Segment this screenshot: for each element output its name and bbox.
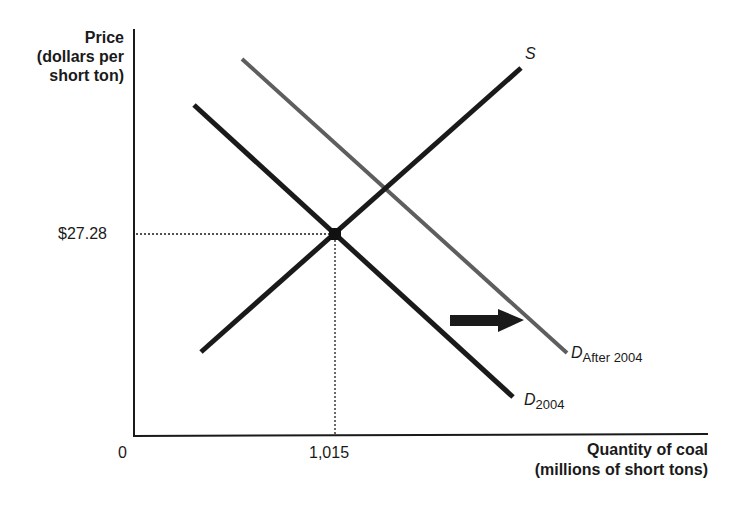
demand-2004-label-main: D bbox=[524, 391, 536, 408]
supply-curve bbox=[201, 68, 521, 352]
origin-label: 0 bbox=[118, 444, 127, 462]
demand-2004-curve bbox=[194, 105, 513, 397]
y-axis-label-line3: short ton) bbox=[20, 66, 124, 85]
y-axis-label-line1: Price bbox=[20, 28, 124, 47]
x-axis bbox=[133, 434, 708, 436]
supply-demand-diagram: Price (dollars per short ton) $27.28 0 1… bbox=[0, 0, 732, 505]
x-axis-label-line1: Quantity of coal bbox=[535, 440, 708, 460]
x-axis-label-line2: (millions of short tons) bbox=[535, 460, 708, 480]
y-axis-label: Price (dollars per short ton) bbox=[20, 28, 124, 85]
price-tick-label: $27.28 bbox=[58, 225, 107, 243]
y-axis-label-line2: (dollars per bbox=[20, 47, 124, 66]
supply-curve-label: S bbox=[525, 45, 536, 63]
demand-after-label-sub: After 2004 bbox=[583, 350, 643, 365]
demand-shift-arrow-icon bbox=[450, 309, 524, 332]
demand-2004-label: D2004 bbox=[524, 391, 564, 412]
demand-after-2004-curve bbox=[242, 59, 567, 353]
x-axis-label: Quantity of coal (millions of short tons… bbox=[535, 440, 708, 480]
demand-after-label-main: D bbox=[571, 344, 583, 361]
equilibrium-point bbox=[329, 228, 341, 240]
demand-after-2004-label: DAfter 2004 bbox=[571, 344, 643, 365]
quantity-tick-label: 1,015 bbox=[309, 444, 349, 462]
demand-2004-label-sub: 2004 bbox=[536, 397, 565, 412]
